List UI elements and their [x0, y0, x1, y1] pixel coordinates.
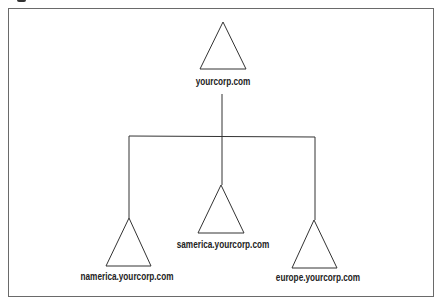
- triangle-domain-icon: [106, 218, 151, 266]
- triangle-domain-icon: [198, 185, 244, 233]
- child-domain-node-samerica: [198, 185, 244, 233]
- child-domain-node-europe: [292, 220, 337, 268]
- domain-tree-diagram: [0, 0, 441, 302]
- root-domain-label: yourcorp.com: [196, 76, 251, 88]
- samerica-domain-label: samerica.yourcorp.com: [177, 239, 270, 251]
- triangle-domain-icon: [292, 220, 337, 268]
- child-domain-node-namerica: [106, 218, 151, 266]
- branch-horizontal-line: [129, 136, 315, 137]
- europe-domain-label: europe.yourcorp.com: [276, 272, 360, 284]
- tree-connectors: [129, 94, 315, 220]
- namerica-domain-label: namerica.yourcorp.com: [81, 271, 174, 283]
- root-domain-node: [200, 22, 246, 69]
- triangle-domain-icon: [200, 22, 246, 69]
